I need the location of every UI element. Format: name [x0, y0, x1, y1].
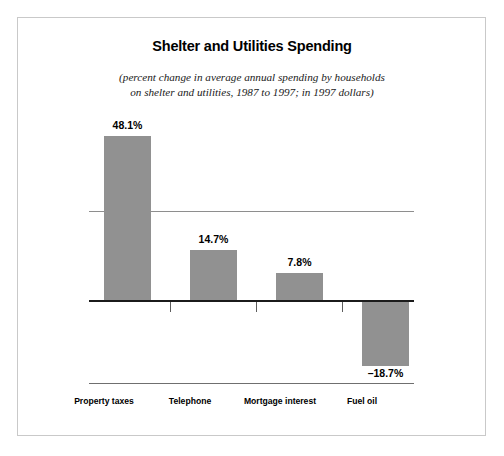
bottom-rule	[89, 383, 414, 384]
zero-axis-line	[89, 300, 414, 302]
category-label-property-taxes: Property taxes	[74, 396, 134, 406]
axis-tick-1	[170, 302, 171, 312]
value-label-property-taxes: 48.1%	[104, 119, 151, 131]
bar-mortgage-interest	[276, 273, 323, 300]
value-label-telephone: 14.7%	[190, 233, 237, 245]
bar-telephone	[190, 250, 237, 300]
axis-tick-3	[342, 302, 343, 312]
value-label-fuel-oil: –18.7%	[362, 367, 409, 379]
chart-subtitle-line-1: (percent change in average annual spendi…	[0, 70, 504, 85]
chart-subtitle: (percent change in average annual spendi…	[0, 70, 504, 100]
plot-area: 48.1% 14.7% 7.8% –18.7%	[89, 120, 414, 384]
value-label-mortgage-interest: 7.8%	[276, 256, 323, 268]
chart-title: Shelter and Utilities Spending	[0, 38, 504, 54]
chart-subtitle-line-2: on shelter and utilities, 1987 to 1997; …	[0, 85, 504, 100]
category-label-fuel-oil: Fuel oil	[332, 396, 392, 406]
category-label-mortgage-interest: Mortgage interest	[241, 396, 319, 406]
axis-tick-2	[256, 302, 257, 312]
chart-figure: Shelter and Utilities Spending (percent …	[0, 0, 504, 456]
bar-property-taxes	[104, 136, 151, 300]
bar-fuel-oil	[362, 302, 409, 366]
category-label-telephone: Telephone	[160, 396, 220, 406]
